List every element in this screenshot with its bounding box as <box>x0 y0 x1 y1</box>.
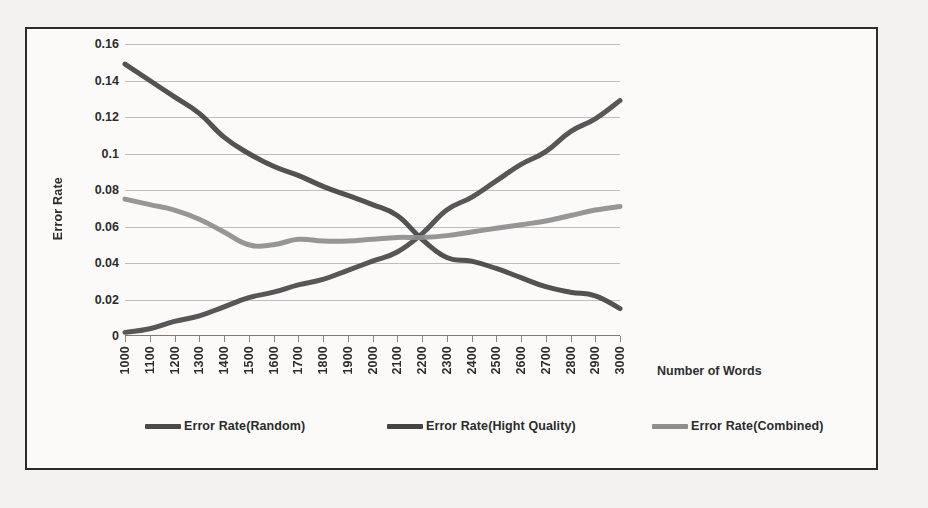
x-axis-tick-label: 1900 <box>341 346 355 375</box>
y-axis-tick-label: 0.08 <box>95 183 119 197</box>
series-line <box>125 64 620 309</box>
x-axis-tick-mark <box>472 336 473 342</box>
x-axis-tick-mark <box>298 336 299 342</box>
y-axis-tick-label: 0.02 <box>95 293 119 307</box>
x-axis-tick-mark <box>595 336 596 342</box>
y-axis-tick-label: 0.12 <box>95 110 119 124</box>
x-axis-tick-mark <box>249 336 250 342</box>
y-axis-tick-label: 0.14 <box>95 74 119 88</box>
x-axis-tick-mark <box>546 336 547 342</box>
x-axis-tick-mark <box>397 336 398 342</box>
x-axis-tick-label: 2400 <box>465 346 479 375</box>
y-axis-tick-label: 0.06 <box>95 220 119 234</box>
x-axis-tick-label: 1800 <box>316 346 330 375</box>
series-lines <box>125 44 620 336</box>
x-axis-tick-label: 2900 <box>588 346 602 375</box>
x-axis-tick-label: 2200 <box>415 346 429 375</box>
x-axis-tick-mark <box>199 336 200 342</box>
x-axis-tick-mark <box>150 336 151 342</box>
x-axis-tick-mark <box>224 336 225 342</box>
x-axis-tick-mark <box>447 336 448 342</box>
x-axis-tick-mark <box>348 336 349 342</box>
x-axis-title: Number of Words <box>657 364 762 378</box>
legend-item[interactable]: Error Rate(Combined) <box>652 419 824 433</box>
plot-area <box>125 44 620 336</box>
x-axis-tick-mark <box>125 336 126 342</box>
x-axis-tick-mark <box>373 336 374 342</box>
x-axis-tick-label: 2600 <box>514 346 528 375</box>
x-axis-tick-label: 1000 <box>118 346 132 375</box>
x-axis-tick-label: 2000 <box>366 346 380 375</box>
x-axis-tick-labels: 1000110012001300140015001600170018001900… <box>125 336 620 432</box>
x-axis-tick-mark <box>422 336 423 342</box>
legend-swatch-icon <box>387 424 423 429</box>
x-axis-tick-label: 1300 <box>192 346 206 375</box>
chart-figure: Error Rate 0.160.140.120.10.080.060.040.… <box>25 27 878 470</box>
plot-wrapper: Error Rate 0.160.140.120.10.080.060.040.… <box>27 29 876 468</box>
y-axis-tick-label: 0.16 <box>95 37 119 51</box>
series-line <box>125 101 620 333</box>
y-axis-tick-label: 0 <box>112 329 119 343</box>
x-axis-tick-mark <box>274 336 275 342</box>
x-axis-tick-label: 1600 <box>267 346 281 375</box>
x-axis-tick-label: 1700 <box>291 346 305 375</box>
legend-label: Error Rate(Random) <box>184 419 305 433</box>
x-axis-tick-label: 1100 <box>143 346 157 374</box>
x-axis-tick-mark <box>620 336 621 342</box>
legend-label: Error Rate(Hight Quality) <box>426 419 576 433</box>
x-axis-tick-mark <box>521 336 522 342</box>
legend-item[interactable]: Error Rate(Hight Quality) <box>387 419 576 433</box>
y-axis-tick-label: 0.04 <box>95 256 119 270</box>
legend-swatch-icon <box>145 424 181 429</box>
x-axis-tick-label: 1400 <box>217 346 231 375</box>
x-axis-tick-label: 2500 <box>489 346 503 375</box>
legend-item[interactable]: Error Rate(Random) <box>145 419 305 433</box>
x-axis-tick-label: 2700 <box>539 346 553 375</box>
y-axis-tick-labels: 0.160.140.120.10.080.060.040.020 <box>71 44 125 336</box>
x-axis-tick-mark <box>571 336 572 342</box>
x-axis-tick-label: 1500 <box>242 346 256 375</box>
x-axis-tick-mark <box>175 336 176 342</box>
x-axis-tick-label: 1200 <box>168 346 182 375</box>
x-axis-tick-label: 2300 <box>440 346 454 375</box>
legend-swatch-icon <box>652 424 688 429</box>
x-axis-tick-mark <box>323 336 324 342</box>
x-axis-tick-label: 2800 <box>564 346 578 375</box>
x-axis-tick-label: 3000 <box>613 346 627 375</box>
legend-label: Error Rate(Combined) <box>691 419 824 433</box>
x-axis-tick-mark <box>496 336 497 342</box>
chart-legend: Error Rate(Random)Error Rate(Hight Quali… <box>27 419 876 449</box>
y-axis-tick-label: 0.1 <box>102 147 119 161</box>
x-axis-tick-label: 2100 <box>390 346 404 375</box>
y-axis-title: Error Rate <box>51 177 71 240</box>
